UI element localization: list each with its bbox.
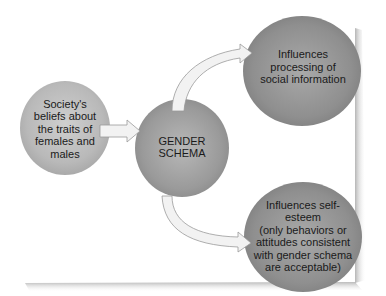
label-society: Society's beliefs about the traits of fe… xyxy=(22,94,108,164)
label-self-esteem: Influences self- esteem (only behaviors … xyxy=(246,196,360,276)
arrow-schema-to-social-info xyxy=(172,44,252,111)
label-social-info: Influences processing of social informat… xyxy=(248,46,358,88)
arrow-schema-to-self-esteem xyxy=(162,196,251,252)
label-gender-schema: GENDER SCHEMA xyxy=(138,132,226,162)
gender-schema-diagram: Society's beliefs about the traits of fe… xyxy=(0,0,386,296)
